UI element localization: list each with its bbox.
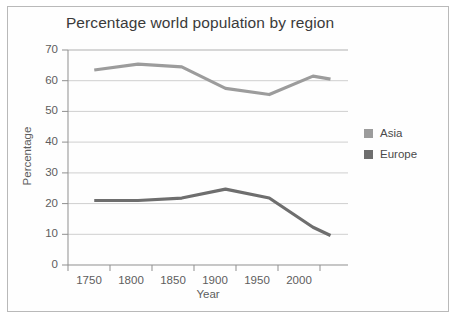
chart-legend: Asia Europe [364, 124, 417, 166]
y-tick-label-40: 40 [32, 135, 58, 147]
x-tick-label-1900: 1900 [192, 274, 238, 286]
y-tick-label-30: 30 [32, 166, 58, 178]
legend-swatch-europe-icon [364, 150, 373, 159]
legend-item-europe[interactable]: Europe [364, 145, 417, 163]
y-tick-marks [62, 50, 68, 265]
legend-label-asia: Asia [380, 127, 402, 139]
x-tick-label-1950: 1950 [234, 274, 280, 286]
y-tick-label-10: 10 [32, 227, 58, 239]
y-tick-label-70: 70 [32, 43, 58, 55]
y-tick-label-0: 0 [32, 258, 58, 270]
x-tick-label-1750: 1750 [66, 274, 112, 286]
legend-label-europe: Europe [380, 148, 417, 160]
y-tick-label-50: 50 [32, 104, 58, 116]
legend-swatch-asia-icon [364, 129, 373, 138]
x-tick-label-1850: 1850 [150, 274, 196, 286]
series-line-europe [94, 189, 330, 235]
y-tick-label-60: 60 [32, 74, 58, 86]
chart-figure: Percentage world population by region [0, 0, 458, 320]
x-tick-marks [68, 265, 320, 271]
legend-item-asia[interactable]: Asia [364, 124, 417, 142]
x-axis-title: Year [68, 288, 348, 300]
y-tick-label-20: 20 [32, 197, 58, 209]
x-tick-label-2000: 2000 [276, 274, 322, 286]
axis-lines [68, 50, 348, 265]
y-axis-title: Percentage [21, 116, 33, 196]
series-line-asia [94, 64, 330, 94]
x-tick-label-1800: 1800 [108, 274, 154, 286]
